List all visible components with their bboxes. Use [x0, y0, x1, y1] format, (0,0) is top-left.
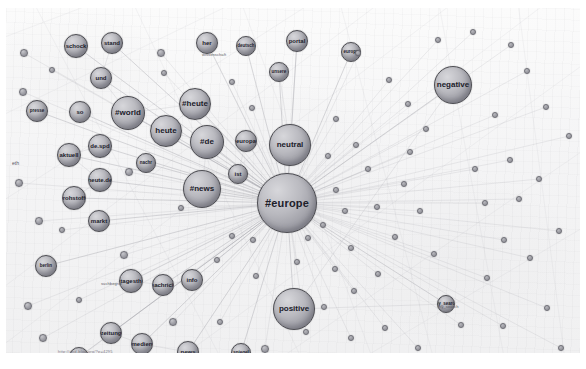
graph-node-dot-65[interactable] — [348, 335, 354, 341]
graph-node-dot-104[interactable] — [229, 79, 235, 85]
graph-node-dot-45[interactable] — [120, 251, 128, 259]
graph-node-dot-64[interactable] — [303, 329, 309, 335]
graph-node-dot-54[interactable] — [261, 345, 269, 353]
graph-node-dot-38[interactable] — [19, 88, 27, 96]
graph-node-dot-56[interactable] — [305, 235, 311, 241]
graph-node-dot-90[interactable] — [536, 176, 542, 182]
graph-node-dot-66[interactable] — [382, 325, 388, 331]
graph-node-dot-43[interactable] — [49, 67, 55, 73]
graph-node-neutral[interactable]: neutral — [269, 124, 311, 166]
graph-node-dot-58[interactable] — [333, 187, 339, 193]
graph-node-dot-69[interactable] — [374, 204, 380, 210]
graph-node-dot-44[interactable] — [125, 168, 133, 176]
graph-node-dot-53[interactable] — [253, 273, 259, 279]
graph-node-dot-67[interactable] — [375, 271, 381, 277]
graph-node-deutsch[interactable]: deutsch — [236, 36, 256, 56]
graph-node-dot-62[interactable] — [351, 288, 357, 294]
graph-node-info[interactable]: info — [181, 269, 203, 291]
graph-node-dot-89[interactable] — [516, 196, 522, 202]
network-graph-canvas[interactable]: #europeneutralpositivenegative#news#dehe… — [6, 8, 580, 353]
graph-node-dot-80[interactable] — [386, 77, 392, 83]
graph-node--de[interactable]: #de — [190, 125, 224, 159]
graph-node-dot-86[interactable] — [543, 104, 549, 110]
graph-node-dot-100[interactable] — [558, 345, 564, 351]
graph-node-dot-70[interactable] — [365, 166, 371, 172]
graph-node-dot-99[interactable] — [544, 305, 550, 311]
graph-node--heute[interactable]: #heute — [179, 88, 211, 120]
graph-node-tagesth[interactable]: tagesth — [119, 269, 143, 293]
graph-node-dot-61[interactable] — [332, 266, 338, 272]
graph-node-dot-91[interactable] — [482, 200, 488, 206]
graph-node-portal[interactable]: portal — [286, 30, 308, 52]
graph-node-de-spd[interactable]: de.spd — [88, 134, 112, 158]
graph-node-dot-63[interactable] — [321, 304, 327, 310]
graph-node-dot-55[interactable] — [294, 259, 300, 265]
graph-node-dot-50[interactable] — [214, 257, 220, 263]
graph-node-dot-94[interactable] — [527, 255, 533, 261]
graph-node-schock[interactable]: schock — [64, 34, 88, 58]
graph-node-dot-49[interactable] — [169, 318, 177, 326]
graph-node-ist[interactable]: ist — [228, 164, 248, 184]
graph-node-dot-105[interactable] — [178, 205, 184, 211]
graph-node-her[interactable]: her — [196, 32, 218, 54]
graph-node-dot-40[interactable] — [35, 217, 43, 225]
graph-node-dot-96[interactable] — [484, 275, 490, 281]
graph-node-dot-75[interactable] — [417, 208, 423, 214]
graph-node--news[interactable]: #news — [183, 170, 221, 208]
graph-node-dot-39[interactable] — [15, 179, 23, 187]
graph-node--world[interactable]: #world — [111, 96, 145, 130]
graph-node-dot-83[interactable] — [470, 29, 476, 35]
graph-node-dot-95[interactable] — [556, 228, 562, 234]
graph-node-dot-68[interactable] — [392, 234, 398, 240]
graph-node-positive[interactable]: positive — [273, 288, 315, 330]
graph-node-dot-93[interactable] — [501, 237, 507, 243]
graph-node-aktuell[interactable]: aktuell — [57, 143, 81, 167]
graph-node-so[interactable]: so — [69, 101, 91, 123]
graph-node-presse[interactable]: presse — [26, 100, 48, 122]
graph-node-dot-78[interactable] — [423, 126, 429, 132]
graph-node-dot-48[interactable] — [161, 70, 167, 76]
graph-node-dot-81[interactable] — [355, 50, 361, 56]
graph-node-dot-47[interactable] — [157, 49, 165, 57]
graph-node-dot-72[interactable] — [333, 116, 339, 122]
graph-node-dot-52[interactable] — [250, 237, 256, 243]
graph-node-zeitung[interactable]: zeitung — [100, 322, 122, 344]
graph-node-dot-71[interactable] — [353, 142, 359, 148]
graph-node-nachr[interactable]: nachr — [136, 153, 156, 173]
graph-node-markt[interactable]: markt — [88, 210, 110, 232]
graph-node-medien[interactable]: medien — [131, 333, 153, 353]
graph-node-dot-37[interactable] — [20, 49, 28, 57]
graph-node-dot-106[interactable] — [59, 227, 65, 233]
graph-node-rohstoff[interactable]: rohstoff — [62, 186, 86, 210]
graph-node-nachrich[interactable]: nachrich — [152, 274, 174, 296]
graph-node-und[interactable]: und — [90, 67, 112, 89]
graph-node-heute[interactable]: heute — [150, 115, 182, 147]
graph-node-unsere[interactable]: unsere — [269, 62, 289, 82]
graph-node-dot-41[interactable] — [24, 302, 32, 310]
graph-node-dot-59[interactable] — [342, 208, 348, 214]
graph-node-dot-42[interactable] — [39, 334, 47, 342]
graph-node-dot-98[interactable] — [500, 323, 506, 329]
graph-node-dot-87[interactable] — [492, 112, 498, 118]
graph-node-dot-101[interactable] — [415, 345, 421, 351]
graph-node-dot-60[interactable] — [348, 245, 354, 251]
graph-node--europe[interactable]: #europe — [257, 173, 317, 233]
graph-node-dot-79[interactable] — [405, 101, 411, 107]
graph-node-dot-103[interactable] — [249, 105, 255, 111]
graph-node-dot-88[interactable] — [507, 157, 513, 163]
graph-node-stand[interactable]: stand — [101, 32, 123, 54]
graph-node-dot-84[interactable] — [508, 42, 514, 48]
graph-node-europa[interactable]: europa — [235, 130, 257, 152]
graph-node-negative[interactable]: negative — [434, 66, 472, 104]
graph-node-dot-46[interactable] — [76, 297, 82, 303]
graph-node-dot-74[interactable] — [401, 181, 407, 187]
graph-node-berlin[interactable]: berlin — [35, 255, 57, 277]
graph-node-dot-97[interactable] — [458, 322, 464, 328]
graph-node-dot-85[interactable] — [524, 68, 530, 74]
graph-node-dot-76[interactable] — [431, 251, 437, 257]
graph-node-dot-107[interactable] — [217, 319, 223, 325]
graph-node-dot-57[interactable] — [320, 222, 326, 228]
graph-node-heute-de[interactable]: heute.de — [88, 168, 112, 192]
graph-node-dot-73[interactable] — [325, 153, 331, 159]
graph-node-dot-102[interactable] — [566, 133, 572, 139]
